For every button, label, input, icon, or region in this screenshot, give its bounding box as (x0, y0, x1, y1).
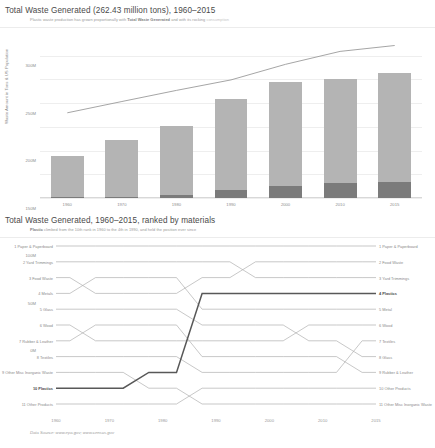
bump-line[interactable] (56, 325, 376, 372)
bar-y-tick-label: 200M (26, 158, 36, 163)
bump-label-right: 11 Other Misc Inorganic Waste (379, 402, 432, 407)
bar-subtitle-part-c: and with its rocking (170, 17, 206, 22)
bar-x-tick-label: 2015 (390, 202, 399, 207)
bump-x-tick-label: 1960 (51, 418, 60, 423)
bump-label-left: 4 Metals (38, 291, 53, 296)
bump-line[interactable] (56, 262, 376, 278)
bump-lines-svg (56, 246, 376, 404)
bump-x-tick-label: 2000 (265, 418, 274, 423)
bump-label-right: 5 Metal (379, 307, 392, 312)
bump-chart-title: Total Waste Generated, 1960–2015, ranked… (0, 216, 435, 225)
bump-subtitle-rest: climbed from the 10th rank in 1960 to th… (44, 227, 196, 232)
us-population-line (40, 46, 422, 198)
bump-label-right: 6 Wood (379, 323, 392, 328)
bump-x-tick-label: 1980 (158, 418, 167, 423)
bar-y-tick-label: 300M (26, 63, 36, 68)
bump-line[interactable] (56, 309, 376, 356)
bar-chart-subtitle: Plastic waste production has grown propo… (0, 17, 435, 22)
bump-x-tick-label: 2015 (371, 418, 380, 423)
bar-gridline: 0M (40, 198, 422, 199)
bar-y-tick-label: 150M (26, 205, 36, 210)
bar-y-tick-label: 250M (26, 110, 36, 115)
bar-subtitle-emphasis: Total Waste Generated (127, 17, 170, 22)
bump-label-right: 4 Plastics (379, 291, 397, 296)
bump-subtitle-emphasis: Plastic (30, 227, 44, 232)
bump-label-left: 10 Plastics (33, 386, 53, 391)
bar-x-tick-label: 2000 (281, 202, 290, 207)
bump-label-left: 5 Glass (40, 307, 53, 312)
bump-x-tick-label: 1970 (105, 418, 114, 423)
bump-label-left: 9 Other Misc Inorganic Waste (2, 370, 53, 375)
bump-line[interactable] (56, 388, 376, 404)
bump-label-right: 3 Yard Trimmings (379, 275, 409, 280)
bump-x-tick-label: 1990 (211, 418, 220, 423)
bump-line[interactable] (56, 325, 376, 341)
waste-ranked-bump-chart: Total Waste Generated, 1960–2015, ranked… (0, 216, 435, 442)
bar-plot-area: 0M50M100M150M200M250M300M196019701980199… (40, 46, 422, 198)
bar-chart-title: Total Waste Generated (262.43 million to… (0, 6, 435, 15)
bump-title-divider (0, 237, 435, 238)
bar-y-axis-title: Waste Amount in Tons & US Population (4, 49, 9, 124)
title-divider (0, 27, 435, 28)
bump-x-tick-label: 2010 (318, 418, 327, 423)
bar-x-tick-label: 2010 (335, 202, 344, 207)
bump-label-left: 6 Wood (40, 323, 53, 328)
bar-x-tick-label: 1990 (226, 202, 235, 207)
waste-generated-bar-chart: Total Waste Generated (262.43 million to… (0, 6, 435, 216)
bump-label-right: 1 Paper & Paperboard (379, 244, 418, 249)
bar-subtitle-part-d: consumption (206, 17, 229, 22)
bump-label-left: 1 Paper & Paperboard (14, 244, 53, 249)
bump-label-right: 8 Glass (379, 354, 392, 359)
bar-x-tick-label: 1970 (117, 202, 126, 207)
bar-x-tick-label: 1980 (172, 202, 181, 207)
bump-label-right: 7 Textiles (379, 338, 395, 343)
bump-plot-area: 1 Paper & Paperboard2 Yard Trimmings3 Fo… (56, 246, 376, 404)
bump-label-left: 11 Other Products (22, 402, 53, 407)
bar-subtitle-part-a: Plastic waste production has grown propo… (30, 17, 127, 22)
bump-label-right: 2 Food Waste (379, 259, 403, 264)
bump-label-left: 3 Food Waste (29, 275, 53, 280)
bump-label-left: 2 Yard Trimmings (23, 259, 53, 264)
bar-x-tick-label: 1960 (63, 202, 72, 207)
bump-label-right: 10 Other Products (379, 386, 411, 391)
bump-label-left: 7 Rubber & Leather (19, 338, 53, 343)
bump-label-right: 9 Rubber & Leather (379, 370, 413, 375)
bump-label-left: 8 Textiles (37, 354, 53, 359)
bump-chart-subtitle: Plastic climbed from the 10th rank in 19… (0, 227, 435, 232)
data-source-note: Data Source: www.epa.gov; www.census.gov (30, 430, 114, 435)
